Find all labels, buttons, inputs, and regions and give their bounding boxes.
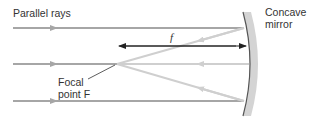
focal-point-leader (88, 65, 115, 79)
focal-point-label: Focal point F (58, 76, 90, 100)
parallel-rays-label: Parallel rays (13, 7, 71, 19)
concave-mirror-label: Concave mirror (265, 6, 306, 30)
concave-mirror-diagram: Parallel rays Concave mirror Focal point… (0, 0, 319, 126)
focal-length-label: f (170, 31, 173, 43)
concave-mirror-label-line2: mirror (265, 18, 306, 30)
focal-point-label-line1: Focal (58, 76, 90, 88)
focal-point-label-line2: point F (58, 88, 90, 100)
concave-mirror-label-line1: Concave (265, 6, 306, 18)
reflected-rays (117, 28, 249, 101)
